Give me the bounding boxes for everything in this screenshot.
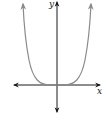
curve-right-branch xyxy=(64,4,91,85)
y-axis-label: y xyxy=(49,0,54,9)
function-graph xyxy=(0,0,109,121)
x-axis-label: x xyxy=(97,87,102,96)
curve-left-branch xyxy=(23,4,50,85)
